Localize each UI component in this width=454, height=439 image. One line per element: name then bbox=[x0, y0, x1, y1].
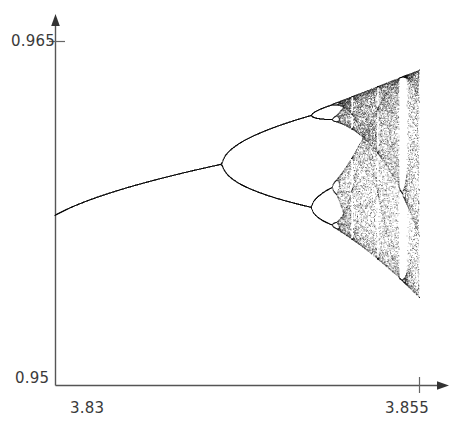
y-axis-bottom-label: 0.95 bbox=[15, 369, 49, 387]
y-axis-arrowhead bbox=[51, 14, 60, 26]
y-axis-top-label: 0.965 bbox=[11, 32, 55, 50]
axes-group bbox=[49, 14, 449, 393]
x-axis-left-label: 3.83 bbox=[70, 399, 104, 417]
bifurcation-figure: 0.965 0.95 3.83 3.855 bbox=[0, 0, 454, 439]
attractor-point-cloud bbox=[55, 70, 420, 298]
x-axis-arrowhead bbox=[437, 381, 449, 390]
x-axis-right-label: 3.855 bbox=[385, 399, 429, 417]
bifurcation-plot bbox=[0, 0, 454, 439]
